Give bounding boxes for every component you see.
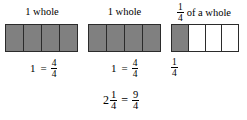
bar-2-cell-3 xyxy=(125,25,143,51)
group-1-denominator: 4 xyxy=(51,68,58,79)
total-improper-fraction: 9 4 xyxy=(132,90,139,111)
group-1-equation: 1 = 4 4 xyxy=(30,58,57,79)
bar-2-cell-2 xyxy=(107,25,125,51)
total-mixed-fraction: 1 4 xyxy=(110,90,117,111)
group-3-heading-text: of a whole xyxy=(187,7,231,19)
group-2-operator: = xyxy=(122,62,128,75)
group-2-denominator: 4 xyxy=(132,68,139,79)
bar-2-cell-1 xyxy=(89,25,107,51)
group-2-numerator: 4 xyxy=(132,58,139,68)
total-equation: 2 1 4 = 9 4 xyxy=(103,90,139,111)
bar-1-cell-1 xyxy=(6,25,24,51)
fraction-diagram: 1 whole 1 whole 1 4 of a whole 1 = 4 4 xyxy=(0,0,247,120)
group-3-label: 1 4 xyxy=(171,57,178,78)
bar-3-cell-4 xyxy=(222,25,238,51)
group-3-fraction: 1 4 xyxy=(171,57,178,78)
bar-3-cell-3 xyxy=(206,25,223,51)
group-1-operator: = xyxy=(41,62,47,75)
group-3-heading-numerator: 1 xyxy=(177,2,184,12)
bar-1-cell-2 xyxy=(24,25,42,51)
group-3-heading-denominator: 4 xyxy=(177,12,184,23)
total-mixed-whole: 2 xyxy=(103,94,109,107)
bar-1-cell-3 xyxy=(42,25,60,51)
group-1-heading: 1 whole xyxy=(6,6,78,18)
group-3-numerator: 1 xyxy=(171,57,178,67)
group-2-heading: 1 whole xyxy=(88,6,161,18)
group-2-equation: 1 = 4 4 xyxy=(111,58,138,79)
group-1-whole: 1 xyxy=(30,62,36,75)
total-mixed-numerator: 1 xyxy=(110,90,117,100)
group-3-heading: 1 4 of a whole xyxy=(163,2,245,23)
bar-3-cell-1 xyxy=(172,25,189,51)
total-operator: = xyxy=(121,94,128,107)
group-3-heading-fraction: 1 4 xyxy=(177,2,184,23)
group-1-numerator: 4 xyxy=(51,58,58,68)
group-2-whole: 1 xyxy=(111,62,117,75)
total-mixed-denominator: 4 xyxy=(110,100,117,111)
total-improper-numerator: 9 xyxy=(132,90,139,100)
bar-3-cell-2 xyxy=(189,25,206,51)
fraction-bar-3 xyxy=(171,24,239,52)
group-1-fraction: 4 4 xyxy=(51,58,58,79)
group-3-denominator: 4 xyxy=(171,67,178,78)
total-improper-denominator: 4 xyxy=(132,100,139,111)
bar-2-cell-4 xyxy=(143,25,160,51)
group-2-fraction: 4 4 xyxy=(132,58,139,79)
fraction-bar-2 xyxy=(88,24,161,52)
bar-1-cell-4 xyxy=(60,25,77,51)
fraction-bar-1 xyxy=(5,24,78,52)
